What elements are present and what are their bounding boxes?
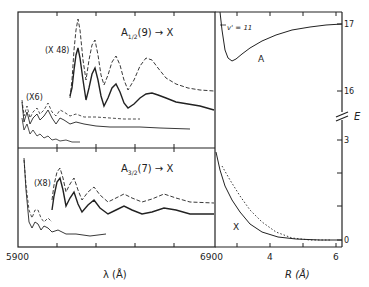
x-axis-label-wavelength: λ (Å) [103, 268, 127, 280]
y-tick-16: 16 [344, 87, 354, 96]
y-tick-17: 17 [344, 20, 354, 29]
vibrational-level-label: v' = 11 [227, 24, 252, 32]
panel-title-a12: A1/2(9) → X [121, 27, 173, 40]
x-axis-label-distance: R (Å) [285, 268, 310, 280]
right-panel-ticks [237, 12, 342, 247]
curve-label-x: X [233, 222, 239, 232]
right-panel-frame [215, 12, 348, 247]
spectrum-a32-x8-solid [52, 178, 214, 214]
y-axis-label-energy: E [354, 111, 361, 122]
y-tick-3: 3 [344, 136, 349, 145]
spectrum-a12-x6-dashed [22, 100, 140, 119]
panel-title-a32: A3/2(7) → X [121, 163, 173, 176]
x-tick-6900: 6900 [200, 252, 223, 262]
y-tick-0: 0 [344, 236, 349, 245]
r-tick-4: 4 [267, 252, 273, 262]
scale-label-x8: (X8) [34, 179, 51, 188]
spectrum-a12-x6-solid [22, 102, 190, 129]
r-tick-6: 6 [333, 252, 339, 262]
spectrum-potential-figure: 5900 6900 λ (Å) A1/2(9) → X (X 48) (X6) … [0, 0, 369, 287]
figure-canvas: 5900 6900 λ (Å) A1/2(9) → X (X 48) (X6) … [0, 0, 369, 287]
scale-label-x6: (X6) [26, 93, 43, 102]
scale-label-x48: (X 48) [45, 46, 69, 55]
x-tick-5900: 5900 [6, 252, 29, 262]
curve-label-a: A [258, 54, 265, 64]
potential-curve-a [220, 12, 342, 61]
spectrum-a12-x48-solid [70, 48, 214, 110]
